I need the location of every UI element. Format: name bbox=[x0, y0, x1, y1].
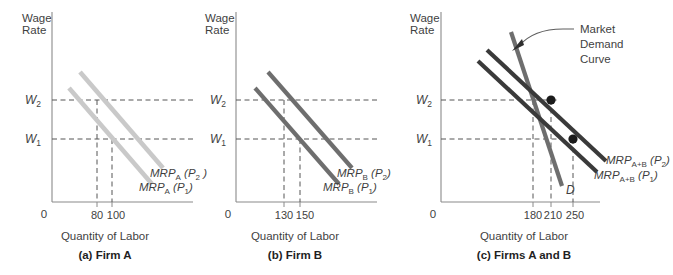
panel-b-caption: (b) Firm B bbox=[268, 249, 322, 261]
svg-text:W1: W1 bbox=[416, 132, 432, 148]
panel-c-curve-market-demand bbox=[511, 32, 562, 186]
panel-b-ylabel-line1: Wage bbox=[205, 12, 235, 24]
panel-a: Wage Rate W2 W1 80 100 0 bbox=[22, 12, 207, 261]
panel-b-ticklabel-150: 150 bbox=[296, 209, 314, 221]
panel-a-ticklabel-80: 80 bbox=[91, 209, 103, 221]
panel-b-origin-label: 0 bbox=[225, 208, 231, 220]
panel-a-ticklabel-100: 100 bbox=[107, 209, 125, 221]
panel-c-w2-label: W2 bbox=[416, 93, 432, 109]
panel-a-origin-label: 0 bbox=[41, 208, 47, 220]
panel-a-ylabel-line2: Rate bbox=[22, 24, 46, 36]
panel-a-curve-mrp-p2 bbox=[80, 72, 163, 168]
panel-a-label-mrp-p1: MRPA (P1) bbox=[139, 181, 193, 196]
panel-c-label-mrp-p1: MRPA+B (P1) bbox=[594, 169, 658, 184]
panel-c-ylabel-line1: Wage bbox=[410, 12, 440, 24]
market-demand-leader-line bbox=[519, 29, 574, 46]
panel-c-ticklabel-180: 180 bbox=[524, 209, 542, 221]
panel-c-annotation-line1: Market bbox=[580, 23, 616, 35]
panel-c-caption: (c) Firms A and B bbox=[477, 249, 571, 261]
panel-b-w1-label: W1 bbox=[210, 132, 226, 148]
panel-a-xlabel: Quantity of Labor bbox=[61, 230, 149, 242]
panel-b-label-mrp-p1: MRPB (P1) bbox=[323, 181, 377, 196]
svg-text:W1: W1 bbox=[25, 132, 41, 148]
figure-container: Wage Rate W2 W1 80 100 0 bbox=[0, 0, 673, 275]
svg-text:W2: W2 bbox=[416, 93, 432, 109]
svg-text:W2: W2 bbox=[25, 93, 41, 109]
panel-c-xlabel: Quantity of Labor bbox=[480, 230, 568, 242]
panel-a-w2-label: W2 bbox=[25, 93, 41, 109]
panel-a-w1-label: W1 bbox=[25, 132, 41, 148]
panel-c-label-demand: D bbox=[566, 183, 575, 197]
panel-c-origin-label: 0 bbox=[430, 208, 436, 220]
panel-a-curve-mrp-p1 bbox=[69, 88, 152, 184]
panel-a-ylabel-line1: Wage bbox=[22, 12, 52, 24]
svg-text:W1: W1 bbox=[210, 132, 226, 148]
panel-b-ylabel-line2: Rate bbox=[205, 24, 229, 36]
panel-b-label-mrp-p2: MRPB (P2) bbox=[337, 167, 391, 182]
panel-c-annotation-line3: Curve bbox=[580, 53, 611, 65]
panel-b-w2-label: W2 bbox=[210, 93, 226, 109]
panel-c-curve-mrp-p1 bbox=[478, 61, 597, 172]
panel-a-label-mrp-p2: MRPA (P2 ) bbox=[150, 167, 207, 182]
panel-b-xlabel: Quantity of Labor bbox=[251, 230, 339, 242]
panel-b-ticklabel-130: 130 bbox=[275, 209, 293, 221]
panel-c-w1-label: W1 bbox=[416, 132, 432, 148]
panel-c-ylabel-line2: Rate bbox=[410, 24, 434, 36]
panel-c-ticklabel-250: 250 bbox=[566, 209, 584, 221]
panel-c-label-mrp-p2: MRPA+B (P2) bbox=[606, 154, 670, 169]
panel-c-equilibrium-dot-w2 bbox=[546, 95, 555, 104]
panel-c: Wage Rate Market Demand Curve W2 W bbox=[410, 12, 670, 261]
panel-c-annotation-line2: Demand bbox=[580, 38, 623, 50]
svg-text:W2: W2 bbox=[210, 93, 226, 109]
panel-a-caption: (a) Firm A bbox=[78, 249, 131, 261]
panel-c-equilibrium-dot-w1 bbox=[568, 134, 577, 143]
panel-b: Wage Rate W2 W1 130 150 0 MRPB (P2) bbox=[205, 12, 391, 261]
panel-c-ticklabel-210: 210 bbox=[544, 209, 562, 221]
